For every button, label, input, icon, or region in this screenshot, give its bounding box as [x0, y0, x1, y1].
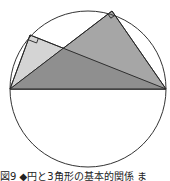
circle-triangle-diagram — [0, 0, 170, 170]
figure-caption: 図9 ◆円と3角形の基本的関係 ま — [0, 170, 170, 181]
